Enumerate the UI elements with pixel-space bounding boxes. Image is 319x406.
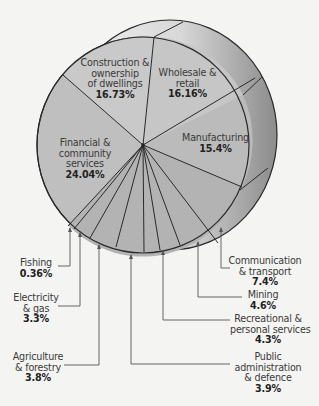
label-text: services	[52, 159, 118, 170]
label-construction: Construction & ownership of dwellings 16…	[80, 58, 150, 100]
label-value: 4.3%	[230, 335, 306, 346]
label-electricity: Electricity & gas 3.3%	[12, 293, 60, 325]
label-value: 16.73%	[80, 90, 150, 101]
label-value: 3.3%	[12, 314, 60, 325]
label-value: 3.8%	[10, 373, 66, 384]
label-text: Financial &	[52, 138, 118, 149]
label-recreational: Recreational & personal services 4.3%	[230, 314, 306, 346]
label-agriculture: Agriculture & forestry 3.8%	[10, 352, 66, 384]
label-text: & defence	[234, 373, 302, 384]
label-text: Communication	[228, 256, 302, 267]
label-value: 24.04%	[52, 170, 118, 181]
label-text: Agriculture	[10, 352, 66, 363]
label-value: 0.36%	[14, 269, 58, 280]
label-text: of dwellings	[80, 79, 150, 90]
label-text: Construction &	[80, 58, 150, 69]
label-fishing: Fishing 0.36%	[14, 258, 58, 279]
label-value: 7.4%	[228, 277, 302, 288]
label-text: Recreational &	[230, 314, 306, 325]
label-value: 15.4%	[178, 144, 253, 155]
label-value: 4.6%	[243, 301, 283, 312]
label-financial: Financial & community services 24.04%	[52, 138, 118, 180]
label-text: Wholesale &	[155, 68, 220, 79]
label-text: Manufacturing	[178, 133, 253, 144]
label-text: Public	[234, 352, 302, 363]
label-mining: Mining 4.6%	[243, 290, 283, 311]
label-wholesale: Wholesale & retail 16.16%	[155, 68, 220, 100]
label-text: Mining	[243, 290, 283, 301]
label-text: Electricity	[12, 293, 60, 304]
label-communication: Communication & transport 7.4%	[228, 256, 302, 288]
label-text: Fishing	[14, 258, 58, 269]
label-public-admin: Public administration & defence 3.9%	[234, 352, 302, 394]
label-manufacturing: Manufacturing 15.4%	[178, 133, 253, 154]
label-value: 3.9%	[234, 384, 302, 395]
label-value: 16.16%	[155, 89, 220, 100]
